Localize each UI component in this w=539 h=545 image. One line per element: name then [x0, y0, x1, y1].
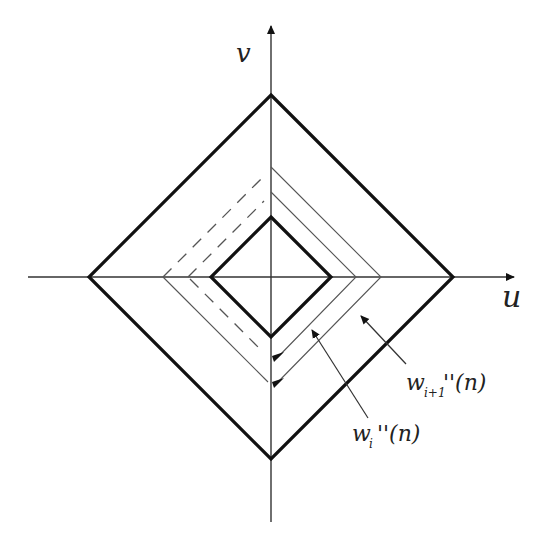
label-w-i1: w i+1 ''(n)	[406, 370, 486, 400]
label-w-i-rest: ''(n)	[377, 421, 420, 446]
label-w-i1-main: w	[406, 370, 425, 395]
label-w-i: w i ''(n)	[352, 421, 420, 451]
arrowhead-icon	[272, 378, 284, 388]
v-axis-label: v	[236, 38, 251, 68]
label-w-i1-rest: ''(n)	[443, 370, 486, 395]
u-axis-label: u	[502, 279, 521, 314]
leader-w-i1	[361, 316, 406, 364]
outer-thin-diamond	[163, 167, 381, 384]
inner-thin-upper-left-dashed	[188, 201, 264, 277]
leader-w-i	[312, 330, 368, 418]
label-w-i-sub: i	[369, 437, 373, 451]
arrowhead-icon	[272, 352, 284, 362]
outer-thin-upper-left-dashed	[163, 178, 262, 277]
diamond-diagram: v u w i+1 ''(n) w i ''(n)	[0, 0, 539, 545]
